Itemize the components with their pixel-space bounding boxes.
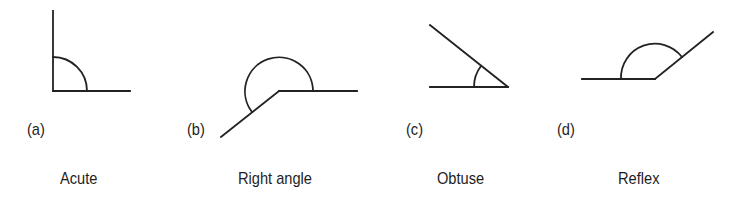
figure-c-name: Obtuse: [437, 169, 484, 189]
figure-b-angle-arc: [245, 57, 313, 112]
angle-types-diagram: (a) Acute (b) Right angle (c) Obtuse (d)…: [0, 0, 745, 205]
figure-d-angle: [582, 32, 713, 79]
figure-d-ray-diagonal: [655, 32, 713, 79]
figure-a-name: Acute: [60, 169, 97, 189]
figure-a-angle: [53, 11, 130, 91]
figure-b-name: Right angle: [238, 169, 312, 189]
figure-a-letter: (a): [27, 120, 45, 140]
figure-b-angle: [221, 57, 357, 137]
figure-c-angle-arc: [474, 66, 481, 87]
figure-c-letter: (c): [406, 120, 423, 140]
figure-a-angle-arc: [53, 57, 87, 91]
figure-b-ray-diagonal: [221, 91, 279, 137]
figure-d-angle-arc: [621, 44, 682, 79]
figure-d-letter: (d): [557, 120, 575, 140]
figure-b-letter: (b): [187, 120, 205, 140]
figure-c-ray-diagonal: [430, 25, 508, 87]
figure-c-angle: [430, 25, 508, 87]
figure-d-name: Reflex: [618, 169, 659, 189]
